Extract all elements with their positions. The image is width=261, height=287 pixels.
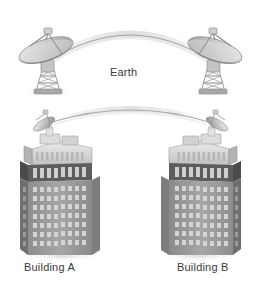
diagram-illustration — [0, 0, 261, 287]
building-b-label: Building B — [177, 261, 229, 273]
link-lower-arc — [52, 109, 209, 124]
building-a-label: Building A — [24, 261, 75, 273]
link-upper-arc — [48, 34, 213, 64]
building-a — [20, 110, 104, 262]
earth-label: Earth — [110, 66, 137, 78]
satellite-dish-left — [16, 28, 76, 97]
building-b — [157, 110, 241, 262]
diagram-canvas: Earth Building A Building B — [0, 0, 261, 287]
satellite-dish-right — [185, 28, 245, 97]
